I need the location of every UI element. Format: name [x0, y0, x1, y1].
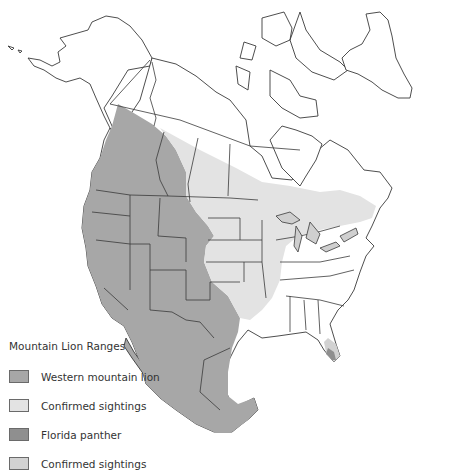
legend-item-florida-panther: Florida panther	[9, 420, 199, 449]
legend-swatch	[9, 370, 29, 383]
map-legend: Mountain Lion Ranges Western mountain li…	[9, 340, 199, 474]
legend-label: Confirmed sightings	[41, 400, 146, 412]
legend-label: Western mountain lion	[41, 371, 160, 383]
legend-swatch	[9, 428, 29, 441]
aleutian-islands	[8, 46, 22, 53]
legend-label: Confirmed sightings	[41, 458, 146, 470]
legend-swatch	[9, 457, 29, 470]
legend-label: Florida panther	[41, 429, 121, 441]
arctic-archipelago	[236, 12, 348, 118]
greenland	[342, 12, 412, 98]
legend-swatch	[9, 399, 29, 412]
legend-title: Mountain Lion Ranges	[9, 340, 199, 352]
legend-item-western-confirmed-sightings: Confirmed sightings	[9, 391, 199, 420]
legend-item-florida-confirmed-sightings: Confirmed sightings	[9, 449, 199, 474]
legend-item-western-mountain-lion: Western mountain lion	[9, 362, 199, 391]
